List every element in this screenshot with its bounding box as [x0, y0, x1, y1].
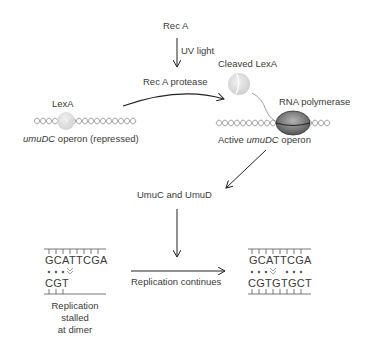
stalled-top-strand: GCATTCGA [45, 254, 108, 266]
stalled-caption-line2: stalled [40, 312, 110, 324]
active-prefix: Active [218, 134, 247, 145]
cleaved-lexa-label: Cleaved LexA [218, 58, 277, 69]
umudc-gene-name: umuDC [23, 133, 55, 144]
rna-polymerase-blob [276, 111, 310, 135]
continued-top-strand: GCATTCGA [249, 254, 312, 266]
active-operon-label: Active umuDC operon [218, 134, 311, 145]
cleavage-arrow [123, 94, 224, 106]
replication-continues-label: Replication continues [131, 276, 221, 287]
lexa-label: LexA [52, 98, 74, 109]
rec-a-label: Rec A [163, 20, 188, 31]
umudc-active-gene-name: umuDC [247, 134, 279, 145]
cleaved-lexa-blob [228, 73, 250, 95]
active-helix [216, 120, 330, 126]
active-suffix: operon [279, 134, 311, 145]
lexa-repressor-blob [57, 112, 75, 130]
stalled-bottom-strand: CGT [45, 277, 69, 289]
stalled-caption: Replication stalled at dimer [40, 300, 110, 336]
stalled-caption-line1: Replication [40, 300, 110, 312]
tether-line [252, 93, 280, 123]
rna-polymerase-label: RNA polymerase [279, 96, 350, 107]
continued-bottom-strand: CGTGTGCT [248, 277, 312, 289]
repressed-helix [34, 118, 136, 124]
repressed-suffix: operon (repressed) [55, 133, 138, 144]
rec-a-protease-label: Rec A protease [143, 76, 207, 87]
uv-light-label: UV light [181, 45, 214, 56]
umuc-umud-label: UmuC and UmuD [137, 189, 212, 200]
repressed-operon-label: umuDC operon (repressed) [23, 133, 139, 144]
to-umu-arrow [226, 150, 266, 188]
stalled-caption-line3: at dimer [40, 324, 110, 336]
